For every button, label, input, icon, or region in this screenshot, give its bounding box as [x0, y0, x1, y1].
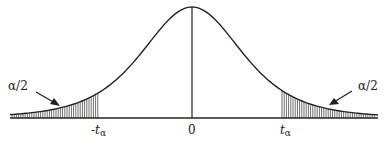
density-curve — [10, 7, 378, 115]
t-subscript: α — [285, 128, 291, 138]
t-distribution-diagram: α/2 α/2 -tα 0 tα — [0, 0, 386, 141]
neg-t-alpha-label: -tα — [91, 124, 106, 138]
t-alpha-label: tα — [280, 124, 291, 138]
left-arrow-icon — [36, 92, 60, 106]
neg-t-text: -t — [91, 123, 100, 137]
neg-t-subscript: α — [100, 128, 106, 138]
bell-curve-graphic — [0, 0, 386, 141]
zero-label: 0 — [188, 124, 196, 136]
right-alpha-half-label: α/2 — [358, 80, 378, 92]
left-alpha-half-label: α/2 — [8, 80, 28, 92]
left-tail-shading — [12, 93, 98, 118]
right-arrow-icon — [329, 91, 352, 105]
